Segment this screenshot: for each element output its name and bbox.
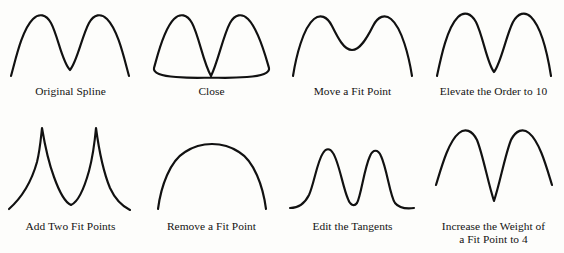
curve-move-a-fit-point: [282, 0, 423, 82]
panel-move-a-fit-point: Move a Fit Point: [282, 0, 423, 113]
panel-caption: Edit the Tangents: [310, 220, 394, 233]
panel-caption: Add Two Fit Points: [23, 220, 117, 233]
panel-caption: Elevate the Order to 10: [438, 85, 549, 98]
curve-add-two-fit-points: [0, 113, 141, 217]
curve-remove-a-fit-point: [141, 113, 282, 217]
panel-close: Close: [141, 0, 282, 113]
panel-original-spline: Original Spline: [0, 0, 141, 113]
panel-remove-a-fit-point: Remove a Fit Point: [141, 113, 282, 253]
spline-figure: Original Spline Close Move a Fit Point E…: [0, 0, 564, 253]
panel-add-two-fit-points: Add Two Fit Points: [0, 113, 141, 253]
panel-edit-the-tangents: Edit the Tangents: [282, 113, 423, 253]
curve-increase-the-weight-of-a-fit-point-to-4: [423, 113, 564, 217]
panel-caption: Move a Fit Point: [312, 85, 394, 98]
panel-caption: Increase the Weight of a Fit Point to 4: [440, 220, 547, 246]
panel-caption: Original Spline: [33, 85, 108, 98]
spline-panel-grid: Original Spline Close Move a Fit Point E…: [0, 0, 564, 253]
panel-increase-the-weight-of-a-fit-point-to-4: Increase the Weight of a Fit Point to 4: [423, 113, 564, 253]
curve-original-spline: [0, 0, 141, 82]
curve-elevate-the-order-to-10: [423, 0, 564, 82]
panel-caption: Close: [196, 85, 226, 98]
panel-caption: Remove a Fit Point: [165, 220, 258, 233]
curve-edit-the-tangents: [282, 113, 423, 217]
curve-close: [141, 0, 282, 82]
panel-elevate-the-order-to-10: Elevate the Order to 10: [423, 0, 564, 113]
